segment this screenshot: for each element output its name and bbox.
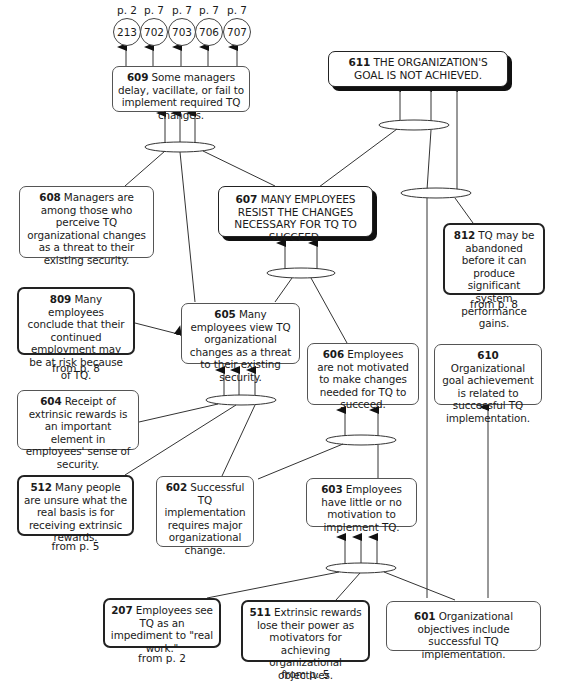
node-text: Organizational goal achievement is relat… bbox=[442, 362, 534, 424]
node-number: 608 bbox=[39, 191, 60, 203]
ref-circle-702[interactable]: 702 bbox=[140, 18, 168, 46]
node-607[interactable]: 607 MANY EMPLOYEES RESIST THE CHANGES NE… bbox=[218, 186, 373, 237]
node-610[interactable]: 610 Organizational goal achievement is r… bbox=[434, 344, 542, 405]
ref-circle-703[interactable]: 703 bbox=[168, 18, 196, 46]
ref-circle-706[interactable]: 706 bbox=[195, 18, 223, 46]
source-ref-809[interactable]: from p. 8 bbox=[17, 362, 135, 374]
node-602[interactable]: 602 Successful TQ implementation require… bbox=[156, 476, 254, 547]
source-ref-511[interactable]: from p. 5 bbox=[241, 668, 370, 680]
node-603[interactable]: 603 Employees have little or no motivati… bbox=[306, 478, 417, 527]
ref-circle-707[interactable]: 707 bbox=[223, 18, 251, 46]
node-number: 603 bbox=[321, 483, 342, 495]
page-ref-label: p. 7 bbox=[195, 4, 223, 16]
node-number: 601 bbox=[414, 610, 435, 622]
node-number: 604 bbox=[40, 395, 61, 407]
node-number: 611 bbox=[348, 56, 370, 68]
node-number: 809 bbox=[50, 293, 71, 305]
node-606[interactable]: 606 Employees are not motivated to make … bbox=[307, 343, 419, 405]
source-ref-512[interactable]: from p. 5 bbox=[17, 540, 134, 552]
node-number: 609 bbox=[127, 71, 148, 83]
node-604[interactable]: 604 Receipt of extrinsic rewards is an i… bbox=[17, 390, 139, 450]
page-ref-label: p. 7 bbox=[140, 4, 168, 16]
node-511[interactable]: 511 Extrinsic rewards lose their power a… bbox=[241, 600, 370, 662]
node-text: TQ may be abandoned before it can produc… bbox=[461, 229, 534, 329]
node-number: 605 bbox=[214, 308, 235, 320]
node-number: 607 bbox=[236, 193, 258, 205]
node-809[interactable]: 809 Many employees conclude that their c… bbox=[17, 287, 135, 355]
source-ref-812[interactable]: from p. 8 bbox=[443, 298, 545, 310]
page-ref-label: p. 7 bbox=[223, 4, 251, 16]
node-611[interactable]: 611 THE ORGANIZATION'S GOAL IS NOT ACHIE… bbox=[328, 51, 508, 87]
node-number: 512 bbox=[30, 481, 51, 493]
ref-circle-213[interactable]: 213 bbox=[113, 18, 141, 46]
node-601[interactable]: 601 Organizational objectives include su… bbox=[386, 601, 541, 651]
node-207[interactable]: 207 Employees see TQ as an impediment to… bbox=[103, 598, 221, 648]
node-number: 511 bbox=[249, 606, 270, 618]
node-number: 602 bbox=[166, 481, 187, 493]
node-812[interactable]: 812 TQ may be abandoned before it can pr… bbox=[443, 223, 545, 295]
node-609[interactable]: 609 Some managers delay, vacillate, or f… bbox=[112, 66, 250, 112]
node-number: 610 bbox=[477, 349, 498, 361]
node-605[interactable]: 605 Many employees view TQ organizationa… bbox=[181, 303, 300, 364]
source-ref-207[interactable]: from p. 2 bbox=[103, 652, 221, 664]
node-608[interactable]: 608 Managers are among those who perceiv… bbox=[19, 186, 154, 258]
node-number: 207 bbox=[111, 604, 132, 616]
page-ref-label: p. 7 bbox=[168, 4, 196, 16]
page-ref-label: p. 2 bbox=[113, 4, 141, 16]
node-text: THE ORGANIZATION'S GOAL IS NOT ACHIEVED. bbox=[354, 56, 488, 81]
node-number: 812 bbox=[454, 229, 475, 241]
node-512[interactable]: 512 Many people are unsure what the real… bbox=[17, 475, 134, 536]
node-number: 606 bbox=[323, 348, 344, 360]
